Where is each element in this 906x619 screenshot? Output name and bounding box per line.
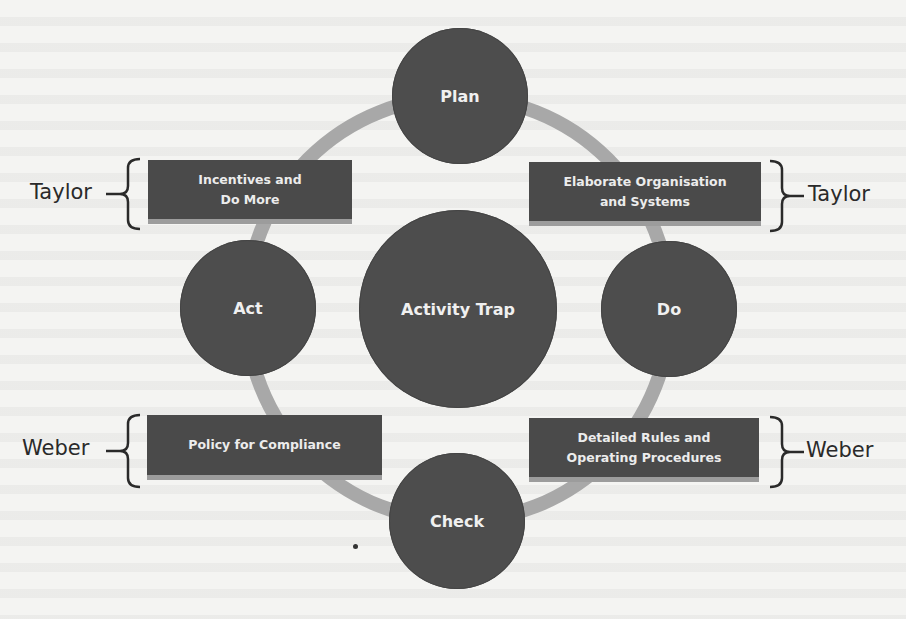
node-label: Plan bbox=[440, 87, 479, 106]
node-act: Act bbox=[180, 240, 316, 376]
label-taylor-left: Taylor bbox=[30, 180, 92, 204]
left-brace-icon bbox=[104, 412, 144, 490]
label-taylor-right: Taylor bbox=[808, 182, 870, 206]
center-label: Activity Trap bbox=[401, 300, 515, 319]
box-line: Operating Procedures bbox=[567, 448, 722, 468]
box-incentives-and-do-more: Incentives and Do More bbox=[148, 160, 352, 224]
node-plan: Plan bbox=[392, 28, 528, 164]
box-detailed-rules-and-operating-procedures: Detailed Rules and Operating Procedures bbox=[529, 418, 759, 482]
box-elaborate-organisation-and-systems: Elaborate Organisation and Systems bbox=[529, 162, 761, 226]
box-line: Do More bbox=[221, 190, 280, 210]
node-check: Check bbox=[389, 453, 525, 589]
stray-dot bbox=[353, 544, 358, 549]
label-weber-left: Weber bbox=[22, 436, 89, 460]
node-label: Check bbox=[430, 512, 484, 531]
box-line: and Systems bbox=[600, 192, 690, 212]
box-line: Detailed Rules and bbox=[578, 428, 711, 448]
box-line: Policy for Compliance bbox=[188, 435, 340, 455]
right-brace-icon bbox=[766, 158, 806, 234]
node-label: Act bbox=[233, 299, 263, 318]
right-brace-icon bbox=[766, 414, 806, 490]
box-line: Incentives and bbox=[198, 170, 301, 190]
box-line: Elaborate Organisation bbox=[563, 172, 726, 192]
box-policy-for-compliance: Policy for Compliance bbox=[147, 415, 382, 480]
node-activity-trap: Activity Trap bbox=[359, 210, 557, 408]
node-label: Do bbox=[657, 300, 681, 319]
node-do: Do bbox=[601, 241, 737, 377]
label-weber-right: Weber bbox=[806, 438, 873, 462]
left-brace-icon bbox=[104, 156, 144, 232]
